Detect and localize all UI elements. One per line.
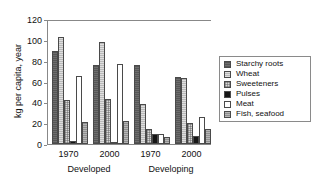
y-tick-mark — [44, 145, 47, 146]
legend-swatch-icon — [224, 81, 231, 88]
bar-group — [134, 21, 170, 144]
chart-container: kg per capita, year 120100806040200 1970… — [0, 0, 312, 192]
legend-label: Wheat — [236, 69, 259, 79]
legend-item[interactable]: Wheat — [224, 69, 307, 79]
legend-label: Sweeteners — [236, 79, 278, 89]
legend-item[interactable]: Meat — [224, 99, 307, 109]
bar[interactable] — [205, 129, 211, 144]
y-tick-label: 80 — [14, 57, 42, 67]
y-tick-mark — [44, 103, 47, 104]
legend-label: Pulses — [236, 89, 260, 99]
y-tick-label: 60 — [14, 78, 42, 88]
x-group-label: Developed — [67, 164, 110, 174]
legend-rows: Starchy rootsWheatSweetenersPulsesMeatFi… — [224, 59, 307, 119]
legend-swatch-icon — [224, 101, 231, 108]
plot-area — [47, 20, 211, 145]
bar[interactable] — [82, 122, 88, 144]
x-tick-label: 1970 — [58, 149, 78, 159]
y-tick-mark — [44, 41, 47, 42]
bar-group — [52, 21, 88, 144]
x-group-label: Developing — [148, 164, 193, 174]
legend-swatch-icon — [224, 61, 231, 68]
y-tick-label: 0 — [14, 140, 42, 150]
y-tick-mark — [44, 83, 47, 84]
legend-swatch-icon — [224, 111, 231, 118]
y-tick-label: 120 — [14, 15, 42, 25]
bar[interactable] — [64, 100, 70, 144]
legend-item[interactable]: Pulses — [224, 89, 307, 99]
plot-inner — [48, 21, 211, 144]
legend-item[interactable]: Starchy roots — [224, 59, 307, 69]
y-tick-mark — [44, 20, 47, 21]
chart-legend: Starchy rootsWheatSweetenersPulsesMeatFi… — [219, 56, 311, 122]
bar-group — [93, 21, 129, 144]
legend-swatch-icon — [224, 71, 231, 78]
bar[interactable] — [164, 137, 170, 144]
y-tick-mark — [44, 124, 47, 125]
x-tick-label: 2000 — [99, 149, 119, 159]
y-tick-mark — [44, 62, 47, 63]
legend-swatch-icon — [224, 91, 231, 98]
legend-label: Fish, seafood — [236, 109, 284, 119]
x-tick-label: 2000 — [181, 149, 201, 159]
legend-item[interactable]: Sweeteners — [224, 79, 307, 89]
y-tick-label: 100 — [14, 36, 42, 46]
x-tick-label: 1970 — [140, 149, 160, 159]
legend-label: Meat — [236, 99, 254, 109]
bar[interactable] — [123, 121, 129, 144]
bar-group — [175, 21, 211, 144]
bar[interactable] — [105, 99, 111, 144]
legend-item[interactable]: Fish, seafood — [224, 109, 307, 119]
y-tick-label: 40 — [14, 98, 42, 108]
y-tick-label: 20 — [14, 119, 42, 129]
legend-label: Starchy roots — [236, 59, 283, 69]
